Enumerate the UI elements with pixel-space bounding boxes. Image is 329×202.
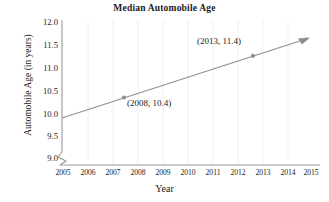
- data-point-2008: [122, 95, 126, 99]
- chart-figure: Median Automobile Age Automobile Age (in…: [0, 0, 329, 202]
- data-point-line-end: [304, 37, 307, 40]
- trend-line: [62, 39, 306, 118]
- annotation-2008: (2008, 10.4): [127, 98, 171, 108]
- annotation-2013: (2013, 11.4): [197, 36, 241, 46]
- data-point-2013: [251, 54, 255, 58]
- trend-line-arrowhead: [298, 38, 310, 45]
- y-axis-break-icon: [58, 152, 66, 165]
- grid-lines: [88, 20, 288, 164]
